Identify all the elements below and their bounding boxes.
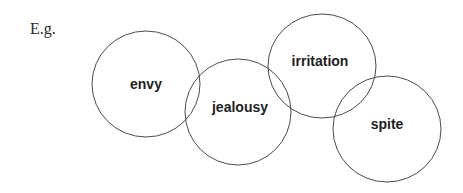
label-irritation: irritation — [292, 53, 349, 69]
label-envy: envy — [130, 76, 162, 92]
circle-irritation: irritation — [268, 14, 376, 118]
label-spite: spite — [371, 116, 404, 132]
circle-spite: spite — [333, 76, 441, 182]
emotion-venn-diagram: envy jealousy irritation spite — [0, 0, 463, 193]
circle-jealousy: jealousy — [185, 59, 291, 165]
circle-envy: envy — [92, 31, 200, 137]
label-jealousy: jealousy — [211, 99, 268, 115]
